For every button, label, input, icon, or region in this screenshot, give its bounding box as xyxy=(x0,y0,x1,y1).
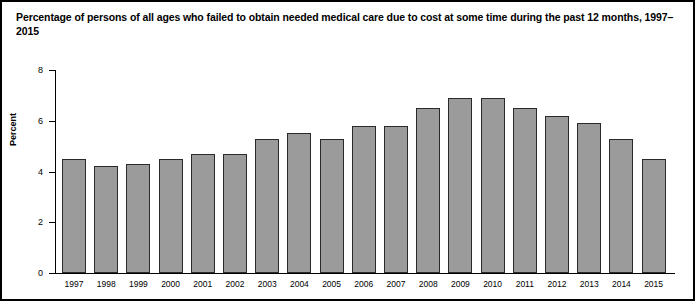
bar-2004 xyxy=(287,133,311,273)
bar-1998 xyxy=(94,166,118,273)
bar-2015 xyxy=(642,159,666,273)
bar-2006 xyxy=(352,126,376,273)
bar-2005 xyxy=(320,139,344,273)
bar-2010 xyxy=(481,98,505,273)
bar-2013 xyxy=(577,123,601,273)
bar-1997 xyxy=(62,159,86,273)
bar-2014 xyxy=(609,139,633,273)
bar-2007 xyxy=(384,126,408,273)
y-tick-label: 6 xyxy=(29,116,43,126)
bar-2001 xyxy=(191,154,215,273)
y-tick-label: 2 xyxy=(29,217,43,227)
x-tick-label-2015: 2015 xyxy=(634,279,674,289)
bar-2012 xyxy=(545,116,569,273)
y-tick-label: 4 xyxy=(29,167,43,177)
chart-title: Percentage of persons of all ages who fa… xyxy=(16,10,676,38)
plot-area: 02468 1997199819992000200120022003200420… xyxy=(55,70,675,273)
x-axis-line xyxy=(55,273,675,274)
y-tick-label: 8 xyxy=(29,65,43,75)
bar-2000 xyxy=(159,159,183,273)
bar-1999 xyxy=(126,164,150,273)
y-tick-mark xyxy=(49,273,55,274)
y-axis-line xyxy=(55,70,56,273)
bar-2003 xyxy=(255,139,279,273)
chart-figure: Percentage of persons of all ages who fa… xyxy=(0,0,695,301)
bar-2011 xyxy=(513,108,537,273)
y-tick-label: 0 xyxy=(29,268,43,278)
bar-2008 xyxy=(416,108,440,273)
y-tick-mark xyxy=(49,70,55,71)
y-tick-mark xyxy=(49,172,55,173)
y-tick-mark xyxy=(49,121,55,122)
y-tick-mark xyxy=(49,222,55,223)
bar-2002 xyxy=(223,154,247,273)
bar-2009 xyxy=(448,98,472,273)
y-axis-title: Percent xyxy=(8,113,18,146)
